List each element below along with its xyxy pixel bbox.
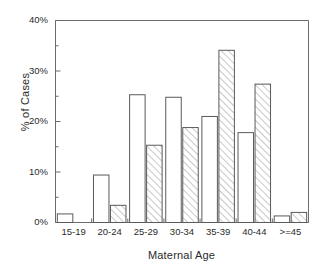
bar-hatched [183, 128, 199, 223]
bar-open [57, 214, 72, 223]
bar-open [130, 95, 146, 223]
bars-layer [57, 50, 306, 222]
bar-hatched [110, 205, 126, 222]
bar-open [93, 175, 109, 222]
bar-open [274, 216, 290, 223]
bar-hatched [255, 84, 270, 222]
bar-open [202, 116, 218, 222]
bar-open [166, 97, 182, 222]
bar-open [238, 133, 254, 223]
bar-hatched [147, 145, 163, 222]
x-tick-label: >=45 [268, 226, 312, 237]
x-axis-title: Maternal Age [55, 249, 308, 261]
bar-hatched [291, 212, 307, 222]
bar-hatched [219, 50, 235, 222]
y-tick-label: 10% [14, 166, 48, 177]
y-axis-title: % of Cases [19, 47, 31, 157]
chart-figure: 0%10%20%30%40% 15-1920-2425-2930-3435-39… [0, 0, 327, 274]
y-tick-label: 40% [14, 14, 48, 25]
y-tick-label: 0% [14, 216, 48, 227]
